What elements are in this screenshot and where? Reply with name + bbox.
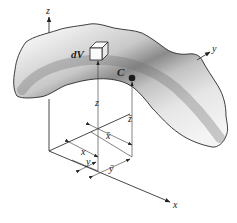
y-bar-label: ȳ: [108, 163, 114, 174]
x-bar-label: x̄: [105, 130, 111, 141]
x-axis-line: [49, 151, 170, 202]
x-axis-label: x: [172, 199, 178, 210]
centroid-dot: [129, 75, 136, 82]
dV-label: dV: [71, 48, 86, 60]
y-axis-line: [49, 114, 130, 151]
z-bar-label: z̄: [127, 113, 132, 124]
volume-body: [14, 24, 228, 147]
centroid-volume-diagram: dV C z z̄ x x̄ y ȳ z y x: [0, 0, 237, 223]
centroid-label: C: [117, 66, 125, 78]
ground-line-element-x: [72, 160, 98, 171]
z-element-label: z: [94, 97, 99, 108]
ground-line-centroid-x: [91, 132, 132, 157]
y-axis-label: y: [211, 43, 217, 54]
y-element-label: y: [85, 156, 91, 167]
z-axis-label: z: [45, 5, 50, 16]
